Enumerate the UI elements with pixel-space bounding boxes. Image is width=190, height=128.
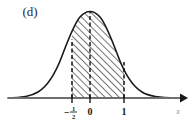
fraction-numerator: 1 — [72, 105, 75, 112]
panel-label: (d) — [22, 4, 37, 19]
tick-label-upper-bound: 1 — [122, 106, 127, 117]
tick-label-center: 0 — [88, 106, 93, 117]
normal-curve-figure: (d) − 1 2 0 1 x — [0, 0, 190, 128]
x-axis-label: x — [175, 107, 180, 116]
tick-label-lower-bound: − 1 2 — [64, 105, 77, 120]
minus-sign: − — [64, 107, 70, 118]
fraction-denominator: 2 — [72, 113, 75, 120]
figure-container: (d) − 1 2 0 1 x — [0, 0, 190, 128]
x-axis-arrowhead — [180, 94, 188, 103]
